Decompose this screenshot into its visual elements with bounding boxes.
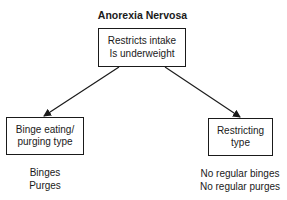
binge-purge-features: Binges Purges [6,167,84,192]
root-node-line-1: Restricts intake [108,35,176,48]
restricting-features: No regular binges No regular purges [190,168,287,193]
binge-purge-feature-1: Binges [6,167,84,180]
restricting-line-1: Restricting [217,125,264,138]
diagram-title-text: Anorexia Nervosa [98,9,187,21]
arrow-to-binge-purge [44,67,119,116]
diagram-title: Anorexia Nervosa [0,9,287,21]
restricting-feature-2: No regular purges [190,181,287,194]
root-node-line-2: Is underweight [109,48,174,61]
binge-purge-line-2: purging type [17,136,72,149]
restricting-line-2: type [231,137,250,150]
restricting-feature-1: No regular binges [190,168,287,181]
binge-purge-line-1: Binge eating/ [16,124,74,137]
root-node-box: Restricts intake Is underweight [98,28,186,67]
binge-purge-type-box: Binge eating/ purging type [6,117,84,155]
arrow-to-restricting [165,67,240,117]
binge-purge-feature-2: Purges [6,180,84,193]
restricting-type-box: Restricting type [208,118,273,156]
